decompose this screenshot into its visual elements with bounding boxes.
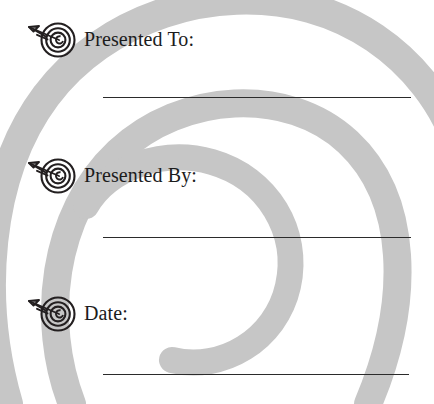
write-in-line-date[interactable] xyxy=(103,374,409,375)
field-row-date: Date: xyxy=(22,290,128,336)
target-arrow-icon xyxy=(22,290,82,336)
field-label-presented-by: Presented By: xyxy=(82,164,197,186)
write-in-line-presented-to[interactable] xyxy=(103,97,411,98)
field-label-presented-to: Presented To: xyxy=(82,28,194,50)
field-row-presented-by: Presented By: xyxy=(22,152,197,198)
field-row-presented-to: Presented To: xyxy=(22,16,194,62)
write-in-line-presented-by[interactable] xyxy=(103,237,411,238)
certificate-page: Presented To: Presented By: xyxy=(0,0,434,404)
target-arrow-icon xyxy=(22,152,82,198)
target-arrow-icon xyxy=(22,16,82,62)
field-label-date: Date: xyxy=(82,302,128,324)
